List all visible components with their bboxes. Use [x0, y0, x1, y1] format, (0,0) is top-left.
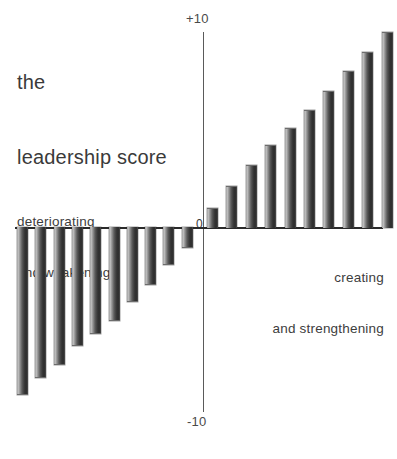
- bar: [343, 71, 354, 228]
- leadership-score-chart: the leadership score deteriorating and w…: [0, 0, 397, 459]
- bar: [323, 91, 334, 229]
- bar: [145, 227, 156, 285]
- bar: [17, 227, 28, 395]
- bar: [163, 227, 174, 265]
- bar: [127, 227, 138, 302]
- bar: [246, 165, 257, 228]
- bar-series: [0, 0, 397, 459]
- bar: [265, 145, 276, 228]
- bar: [109, 227, 120, 321]
- bar: [182, 227, 193, 248]
- bar: [304, 110, 315, 228]
- bar: [382, 32, 393, 228]
- bar: [72, 227, 83, 346]
- bar: [35, 227, 46, 378]
- bar: [285, 128, 296, 228]
- bar: [362, 52, 373, 229]
- bar: [226, 186, 237, 228]
- bar: [90, 227, 101, 334]
- bar: [54, 227, 65, 365]
- bar: [207, 208, 218, 229]
